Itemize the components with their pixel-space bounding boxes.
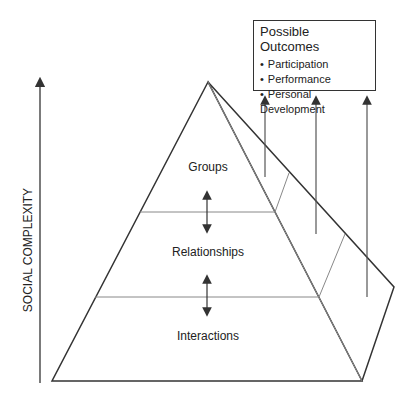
level-relationships: Relationships — [172, 245, 244, 259]
axis-label: SOCIAL COMPLEXITY — [21, 188, 35, 312]
outcome-item: Performance — [260, 72, 369, 87]
possible-outcomes-box: Possible Outcomes Participation Performa… — [253, 20, 376, 91]
level-interactions: Interactions — [177, 329, 239, 343]
level-groups: Groups — [188, 160, 227, 174]
outcomes-title: Possible Outcomes — [260, 24, 369, 54]
outcome-item: Participation — [260, 57, 369, 72]
outcome-item: Personal Development — [260, 87, 369, 117]
